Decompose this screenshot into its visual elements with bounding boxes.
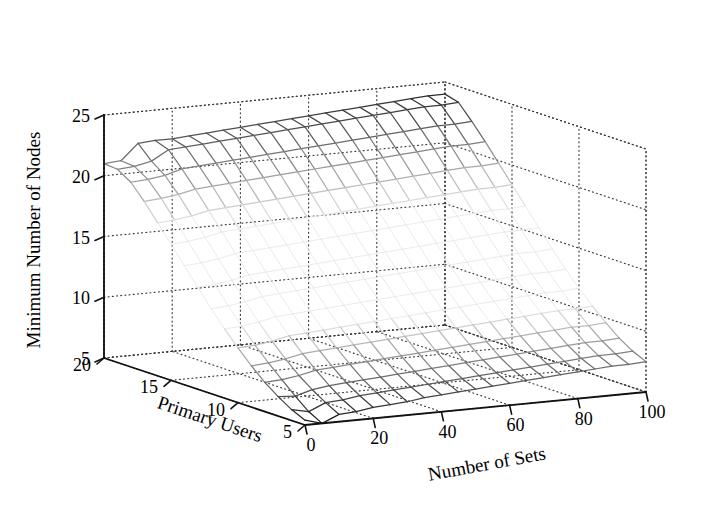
tick-label: 20 — [370, 428, 388, 448]
tick-label: 10 — [72, 288, 90, 308]
plot-canvas: 2520151052015105020406080100 Minimum Num… — [0, 0, 724, 520]
tick-label: 20 — [73, 355, 91, 375]
tick-label: 60 — [507, 415, 525, 435]
tick-label: 100 — [639, 402, 666, 422]
tick-label: 15 — [140, 377, 158, 397]
surface-mesh — [104, 94, 646, 423]
tick-label: 40 — [438, 422, 456, 442]
tick-label: 5 — [283, 422, 292, 442]
z-axis-title: Minimum Number of Nodes — [23, 132, 44, 349]
tick-label: 20 — [72, 167, 90, 187]
tick-label: 15 — [72, 228, 90, 248]
figure-3d-mesh-plot: 2520151052015105020406080100 Minimum Num… — [0, 0, 724, 520]
tick-label: 0 — [307, 435, 316, 455]
x-axis-title: Number of Sets — [426, 442, 547, 484]
tick-label: 25 — [72, 106, 90, 126]
tick-label: 80 — [575, 409, 593, 429]
